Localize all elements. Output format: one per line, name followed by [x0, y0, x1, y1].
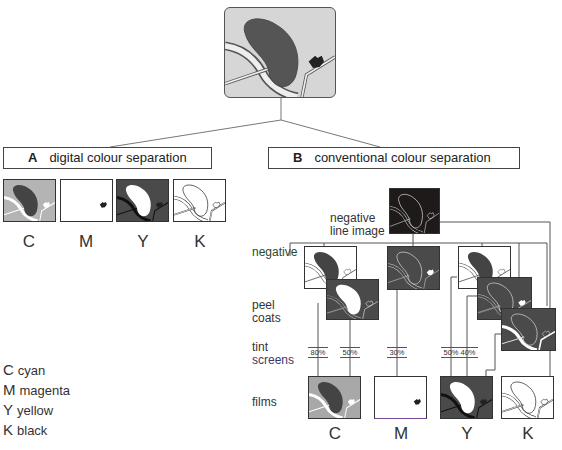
peel-coat-c [326, 279, 379, 320]
film-k [501, 376, 554, 419]
film-y [440, 376, 493, 419]
row-label-negative: negative [252, 246, 297, 259]
negative-line-image [389, 188, 440, 234]
film-label-c: C [325, 424, 345, 444]
film-label-k: K [518, 424, 538, 444]
row-label-films: films [252, 396, 277, 409]
tint-screen-40: 40% [458, 347, 478, 358]
legend-yellow: Yyellow [3, 401, 53, 418]
film-c [308, 376, 361, 419]
film-m [374, 376, 427, 419]
tint-screen-50-c: 50% [340, 347, 360, 358]
legend-black: Kblack [3, 421, 47, 438]
tint-screen-80: 80% [308, 347, 328, 358]
negative-line-image-label: negative line image [330, 212, 385, 238]
row-label-screens: screens [252, 354, 294, 367]
tint-screen-30: 30% [387, 347, 407, 358]
film-label-y: Y [457, 424, 477, 444]
row-label-coats: coats [252, 312, 281, 325]
negative-m [387, 246, 440, 290]
legend-cyan: Ccyan [3, 361, 45, 378]
film-label-m: M [391, 424, 411, 444]
legend-magenta: Mmagenta [3, 381, 70, 398]
peel-coat-y2 [501, 308, 556, 351]
